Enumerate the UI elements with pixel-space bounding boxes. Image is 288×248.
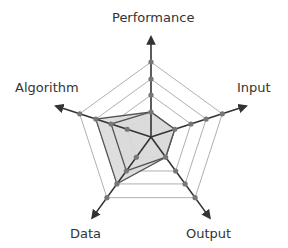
axis-input [151,106,246,137]
axis-label-output: Output [186,226,231,241]
axis-tick-marker [182,181,187,186]
axis-tick-marker [148,92,153,97]
axis-tick-marker [125,127,130,132]
axis-tick-marker [134,155,139,160]
axis-tick-marker [188,121,193,126]
axis-label-input: Input [237,80,271,95]
axis-label-performance: Performance [112,10,194,25]
axis-tick-marker [148,76,153,81]
axis-tick-marker [172,127,177,132]
axis-tick-marker [148,109,153,114]
axis-tick-marker [104,195,109,200]
axis-tick-marker [173,168,178,173]
axis-tick-marker [108,121,113,126]
axis-output [151,137,210,218]
axis-tick-marker [220,111,225,116]
axis-tick-marker [124,168,129,173]
axis-tick-marker [192,195,197,200]
axis-label-data: Data [70,226,101,241]
radar-chart [0,0,288,248]
axis-label-algorithm: Algorithm [15,80,79,95]
axis-tick-marker [148,59,153,64]
axis-tick-marker [163,155,168,160]
axis-tick-marker [77,111,82,116]
axis-tick-marker [114,181,119,186]
axis-tick-marker [93,116,98,121]
axis-tick-marker [204,116,209,121]
